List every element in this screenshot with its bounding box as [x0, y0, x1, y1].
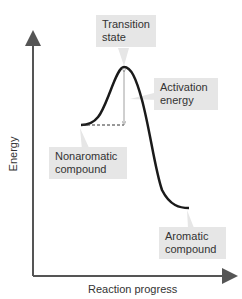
- activation-energy-label: Activation energy: [154, 78, 218, 110]
- transition-state-line-1: Transition: [102, 18, 150, 31]
- activation-energy-line-1: Activation: [160, 81, 212, 94]
- nonaromatic-compound-label: Nonaromatic compound: [49, 147, 127, 179]
- nonaromatic-line-1: Nonaromatic: [55, 150, 121, 163]
- aromatic-pointer: [187, 210, 194, 228]
- aromatic-line-2: compound: [165, 243, 220, 256]
- transition-state-pointer: [118, 48, 129, 66]
- transition-state-label: Transition state: [96, 15, 156, 47]
- y-axis-label: Energy: [7, 137, 19, 172]
- transition-state-line-2: state: [102, 31, 150, 44]
- aromatic-compound-label: Aromatic compound: [159, 227, 226, 259]
- nonaromatic-line-2: compound: [55, 163, 121, 176]
- aromatic-line-1: Aromatic: [165, 230, 220, 243]
- x-axis-label: Reaction progress: [88, 283, 177, 295]
- activation-energy-line-2: energy: [160, 94, 212, 107]
